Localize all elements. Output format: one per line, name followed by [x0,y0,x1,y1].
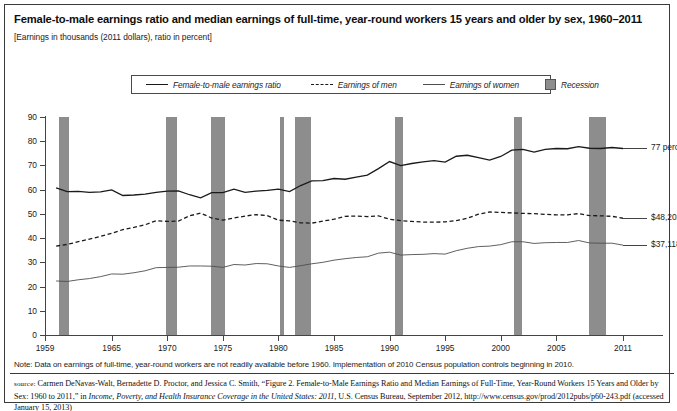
y-tick-label: 40 [15,233,37,243]
source-italic-title: Income, Poverty, and Health Insurance Co… [89,392,337,401]
series-lines [45,117,623,335]
plot-area [45,117,623,335]
x-tick-label: 1970 [147,343,187,353]
x-tick-mark [623,336,624,341]
x-axis [45,335,663,336]
x-tick-label: 1990 [370,343,410,353]
x-tick-mark [556,336,557,341]
x-tick-label: 2000 [481,343,521,353]
series-line-solid-thick [56,147,623,198]
x-tick-mark [390,336,391,341]
y-tick-label: 30 [15,257,37,267]
x-tick-label: 1985 [314,343,354,353]
legend-item-recession[interactable]: Recession [545,76,599,93]
ratio-end-label: 77 percent [651,142,677,152]
x-tick-label: 1980 [258,343,298,353]
y-tick-label: 70 [15,160,37,170]
line-solid-thick-icon [146,84,168,85]
legend-item-men[interactable]: Earnings of men [311,76,397,93]
divider [10,373,674,374]
x-tick-mark [278,336,279,341]
x-tick-mark [45,336,46,341]
y-tick-label: 0 [15,330,37,340]
legend-item-ratio[interactable]: Female-to-male earnings ratio [146,76,281,93]
x-tick-mark [501,336,502,341]
x-tick-mark [445,336,446,341]
x-tick-mark [334,336,335,341]
legend-label-women: Earnings of women [450,80,519,90]
legend-item-women[interactable]: Earnings of women [423,76,519,93]
legend-label-men: Earnings of men [338,80,397,90]
legend-label-recession: Recession [561,80,599,90]
x-tick-mark [112,336,113,341]
line-dashed-icon [311,84,333,85]
x-tick-label: 1975 [203,343,243,353]
recession-swatch-icon [545,79,556,90]
x-tick-label: 1959 [25,343,65,353]
series-line-dashed [56,212,623,246]
figure-container: Female-to-male earnings ratio and median… [4,4,670,403]
men-end-label: $48,202 [651,212,677,222]
x-tick-label: 2011 [603,343,643,353]
chart-legend: Female-to-male earnings ratio Earnings o… [131,75,551,94]
line-solid-thin-icon [423,84,445,85]
y-tick-label: 10 [15,306,37,316]
y-tick-label: 90 [15,112,37,122]
chart-source: source: Carmen DeNavas-Walt, Bernadette … [14,378,666,411]
men-end-label-leader [623,218,647,219]
y-tick-label: 50 [15,209,37,219]
y-tick-label: 60 [15,185,37,195]
series-line-solid-thin [56,241,623,282]
x-tick-label: 1965 [92,343,132,353]
chart-note: Note: Data on earnings of full-time, yea… [14,360,664,369]
y-tick-label: 80 [15,136,37,146]
x-tick-label: 1995 [425,343,465,353]
ratio-end-label-leader [623,148,647,149]
women-end-label: $37,118 [651,239,677,249]
x-tick-mark [223,336,224,341]
legend-label-ratio: Female-to-male earnings ratio [173,80,281,90]
x-tick-mark [167,336,168,341]
women-end-label-leader [623,245,647,246]
x-tick-label: 2005 [536,343,576,353]
source-label: source: [14,380,36,388]
y-tick-label: 20 [15,282,37,292]
page-title: Female-to-male earnings ratio and median… [14,13,662,26]
chart-subtitle: [Earnings in thousands (2011 dollars), r… [14,32,654,42]
